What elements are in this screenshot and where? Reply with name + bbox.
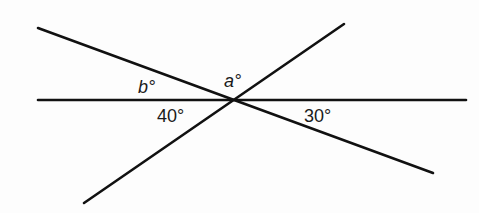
angle-label-30: 30° bbox=[304, 107, 331, 125]
angle-label-40: 40° bbox=[157, 107, 184, 125]
diagram-canvas bbox=[0, 0, 479, 213]
angle-label-b: b° bbox=[138, 78, 155, 96]
angle-label-a: a° bbox=[224, 72, 241, 90]
